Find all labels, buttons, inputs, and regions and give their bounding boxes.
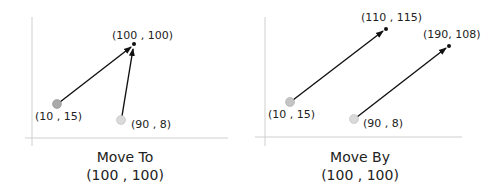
caption-value: (100 , 100) — [321, 167, 399, 183]
arrow-2 — [357, 48, 446, 117]
start-point-2 — [350, 115, 359, 124]
caption-title: Move To — [97, 149, 154, 165]
target-point — [132, 42, 136, 46]
panel-move-by: (110 , 115) (190, 108) (10 , 15) (90 , 8… — [255, 11, 481, 183]
arrow-1 — [293, 31, 383, 100]
target-label: (100 , 100) — [112, 29, 173, 42]
start-label-1: (10 , 15) — [268, 108, 315, 121]
panel-move-to: (100 , 100) (10 , 15) (90 , 8) Move To (… — [25, 17, 228, 183]
arrow-2 — [122, 49, 133, 116]
arrow-1 — [60, 47, 131, 102]
caption-value: (100 , 100) — [86, 167, 164, 183]
start-point-1 — [53, 100, 62, 109]
start-label-2: (90 , 8) — [131, 118, 171, 131]
target-point-2 — [447, 44, 451, 48]
target-label-2: (190, 108) — [423, 28, 481, 41]
move-diagram: (100 , 100) (10 , 15) (90 , 8) Move To (… — [0, 0, 500, 193]
start-point-1 — [286, 98, 295, 107]
start-point-2 — [117, 116, 126, 125]
caption-title: Move By — [330, 149, 390, 165]
start-label-1: (10 , 15) — [35, 110, 82, 123]
target-point-1 — [384, 27, 388, 31]
target-label-1: (110 , 115) — [361, 11, 422, 24]
start-label-2: (90 , 8) — [363, 117, 403, 130]
